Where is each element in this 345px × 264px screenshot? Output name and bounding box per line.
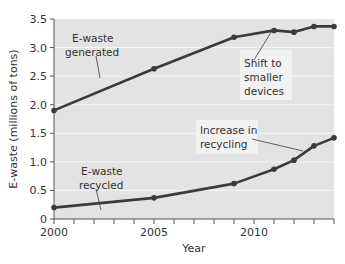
data-point bbox=[291, 157, 297, 163]
data-point bbox=[51, 108, 57, 114]
y-tick-label: 3.0 bbox=[30, 42, 48, 55]
x-axis-title: Year bbox=[181, 242, 206, 255]
line-chart: 00.51.01.52.02.53.03.5 200020052010 Year… bbox=[0, 0, 345, 264]
y-tick-label: 1.0 bbox=[30, 156, 48, 169]
data-point bbox=[271, 166, 277, 172]
data-point bbox=[271, 28, 277, 34]
data-point bbox=[311, 143, 317, 149]
data-point bbox=[51, 205, 57, 211]
y-tick-label: 3.5 bbox=[30, 13, 48, 26]
data-point bbox=[231, 181, 237, 187]
y-tick-label: 2.5 bbox=[30, 70, 48, 83]
data-point bbox=[331, 24, 337, 30]
y-axis-title: E-waste (millions of tons) bbox=[7, 49, 20, 188]
x-tick-label: 2010 bbox=[240, 226, 268, 239]
data-point bbox=[151, 66, 157, 72]
data-point bbox=[331, 135, 337, 141]
x-tick-label: 2000 bbox=[40, 226, 68, 239]
x-axis-ticks: 200020052010 bbox=[40, 219, 334, 239]
y-tick-label: 0.5 bbox=[30, 184, 48, 197]
y-tick-label: 0 bbox=[40, 213, 47, 226]
annotation-shift: Shift to smaller devices bbox=[244, 57, 286, 97]
data-point bbox=[151, 195, 157, 201]
data-point bbox=[311, 24, 317, 30]
y-tick-label: 1.5 bbox=[30, 127, 48, 140]
y-tick-label: 2.0 bbox=[30, 99, 48, 112]
data-point bbox=[231, 34, 237, 40]
y-axis-ticks: 00.51.01.52.02.53.03.5 bbox=[30, 13, 55, 226]
x-tick-label: 2005 bbox=[140, 226, 168, 239]
data-point bbox=[291, 29, 297, 35]
